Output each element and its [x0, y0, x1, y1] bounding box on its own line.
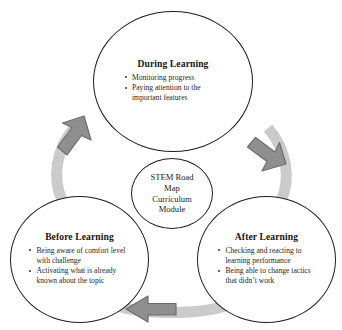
node-after-learning[interactable]: After Learning Checking and reacting to …: [197, 196, 336, 323]
node-after-learning-title: After Learning: [235, 232, 298, 243]
list-item: Monitoring progress: [124, 73, 228, 83]
center-hub-line-3: Curriculum: [150, 194, 193, 205]
arrow-during-to-after: [248, 128, 287, 201]
list-item: Paying attention to the important featur…: [124, 83, 228, 103]
arrow-before-to-during: [57, 116, 91, 200]
node-during-learning-title: During Learning: [137, 59, 208, 70]
list-item: Checking and reacting to learning perfor…: [218, 246, 322, 266]
node-after-learning-bullets: Checking and reacting to learning perfor…: [218, 246, 322, 287]
diagram-canvas: During Learning Monitoring progress Payi…: [0, 0, 342, 330]
node-before-learning-title: Before Learning: [45, 232, 114, 243]
node-during-learning-bullets: Monitoring progress Paying attention to …: [124, 73, 228, 104]
list-item: Being able to change tactics that didn’t…: [218, 266, 322, 286]
node-during-learning[interactable]: During Learning Monitoring progress Payi…: [93, 11, 253, 152]
list-item: Being aware of comfort level with challe…: [29, 246, 135, 266]
center-hub-label: STEM Road Map Curriculum Module: [150, 172, 193, 215]
node-center-hub[interactable]: STEM Road Map Curriculum Module: [131, 158, 213, 229]
node-before-learning-bullets: Being aware of comfort level with challe…: [29, 246, 135, 287]
center-hub-line-2: Map: [150, 183, 193, 194]
center-hub-line-4: Module: [150, 204, 193, 215]
node-before-learning[interactable]: Before Learning Being aware of comfort l…: [10, 196, 149, 323]
arrow-head-bottom: [126, 296, 176, 322]
center-hub-line-1: STEM Road: [150, 172, 193, 183]
list-item: Activating what is already known about t…: [29, 266, 135, 286]
